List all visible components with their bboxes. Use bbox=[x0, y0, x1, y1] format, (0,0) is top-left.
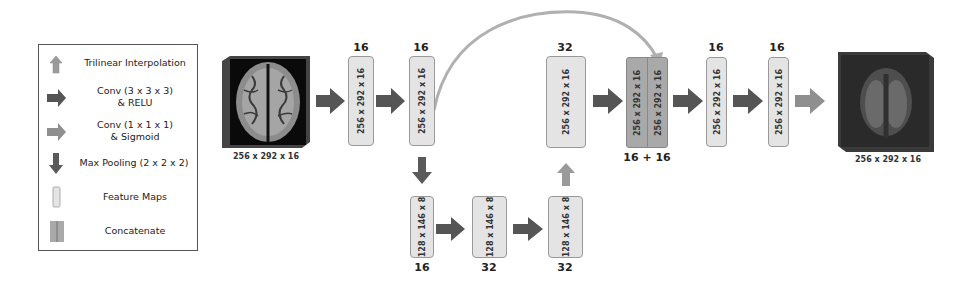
feature-map-bottleneck1: 128 x 146 x 8 bbox=[410, 196, 434, 258]
dims-label: 256 x 292 x 16 bbox=[418, 68, 427, 134]
conv-relu-arrow-icon bbox=[316, 88, 345, 114]
dims-label: 256 x 292 x 16 bbox=[712, 69, 721, 135]
conv-relu-arrow-icon bbox=[376, 88, 405, 114]
enc2-channels: 16 bbox=[401, 41, 441, 54]
brain-mri-image bbox=[222, 56, 310, 152]
output-probability-map-image bbox=[838, 52, 934, 152]
dims-label: 128 x 146 x 8 bbox=[418, 197, 427, 257]
up1-channels: 32 bbox=[545, 41, 585, 54]
dims-label: 128 x 146 x 8 bbox=[561, 197, 570, 257]
conv-relu-arrow-icon bbox=[673, 88, 703, 114]
dims-label: 256 x 292 x 16 bbox=[357, 68, 366, 134]
feature-map-enc1: 256 x 292 x 16 bbox=[348, 56, 374, 146]
dims-label: 256 x 292 x 16 bbox=[562, 69, 571, 135]
feature-map-dec1: 256 x 292 x 16 bbox=[706, 57, 727, 147]
conv-relu-arrow-icon bbox=[733, 88, 763, 114]
feature-map-concat-skip: 256 x 292 x 16 bbox=[626, 57, 648, 148]
concat-channels: 16 + 16 bbox=[622, 151, 672, 164]
output-segmentation-volume bbox=[838, 52, 934, 152]
conv-relu-arrow-icon bbox=[436, 217, 465, 241]
enc1-channels: 16 bbox=[341, 41, 381, 54]
bot2-channels: 32 bbox=[469, 261, 509, 274]
feature-map-upsampled: 256 x 292 x 16 bbox=[546, 56, 586, 148]
input-mri-volume bbox=[222, 56, 310, 152]
bot3-channels: 32 bbox=[545, 261, 585, 274]
conv-relu-arrow-icon bbox=[593, 88, 623, 114]
feature-map-enc2: 256 x 292 x 16 bbox=[409, 56, 435, 146]
output-dims-label: 256 x 292 x 16 bbox=[838, 155, 938, 164]
dims-label: 256 x 292 x 16 bbox=[774, 69, 783, 135]
conv-relu-arrow-icon bbox=[513, 217, 543, 241]
feature-map-bottleneck3: 128 x 146 x 8 bbox=[548, 196, 583, 258]
dec1-channels: 16 bbox=[696, 41, 736, 54]
dims-label: 256 x 292 x 16 bbox=[653, 70, 662, 136]
max-pooling-arrow-icon bbox=[412, 157, 432, 184]
conv-sigmoid-arrow-icon bbox=[795, 88, 825, 114]
dec2-channels: 16 bbox=[757, 41, 797, 54]
bot1-channels: 16 bbox=[402, 261, 442, 274]
feature-map-dec2: 256 x 292 x 16 bbox=[768, 57, 789, 147]
feature-map-bottleneck2: 128 x 146 x 8 bbox=[472, 196, 507, 258]
dims-label: 128 x 146 x 8 bbox=[485, 197, 494, 257]
dims-label: 256 x 292 x 16 bbox=[633, 70, 642, 136]
trilinear-interpolation-arrow-icon bbox=[557, 163, 575, 186]
input-dims-label: 256 x 292 x 16 bbox=[222, 152, 310, 161]
feature-map-concat-up: 256 x 292 x 16 bbox=[647, 57, 668, 148]
